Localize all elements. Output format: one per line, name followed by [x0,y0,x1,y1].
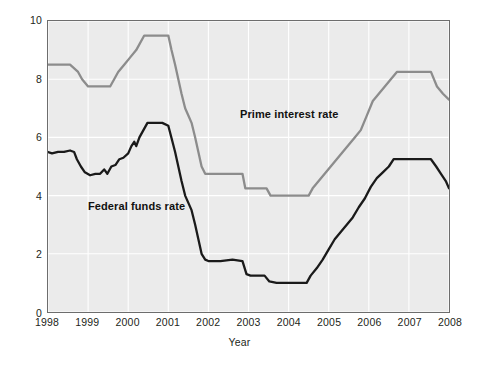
x-axis-tick-group: 1998199920002001200220032004200520062007… [0,316,479,332]
y-tick-label-6: 6 [4,131,42,143]
x-tick-label-2005: 2005 [317,316,341,328]
y-tick-label-4: 4 [4,190,42,202]
data-series-group [48,21,449,312]
x-tick-label-2003: 2003 [236,316,260,328]
interest-rate-chart: 0246810 Prime interest rate Federal fund… [0,0,479,367]
x-tick-label-1998: 1998 [35,316,59,328]
y-tick-label-2: 2 [4,248,42,260]
x-tick-label-2004: 2004 [277,316,301,328]
plot-area [47,20,450,313]
y-tick-label-10: 10 [4,14,42,26]
y-axis-tick-group: 0246810 [0,0,42,367]
x-tick-label-2008: 2008 [438,316,462,328]
x-tick-label-2002: 2002 [196,316,220,328]
x-tick-label-2006: 2006 [357,316,381,328]
series-label-federal-funds-rate: Federal funds rate [88,200,185,212]
x-tick-label-1999: 1999 [75,316,99,328]
series-label-prime-interest-rate: Prime interest rate [240,108,339,120]
x-tick-label-2000: 2000 [116,316,140,328]
x-tick-label-2007: 2007 [398,316,422,328]
x-tick-label-2001: 2001 [156,316,180,328]
x-axis-title: Year [0,336,479,348]
y-tick-label-8: 8 [4,73,42,85]
